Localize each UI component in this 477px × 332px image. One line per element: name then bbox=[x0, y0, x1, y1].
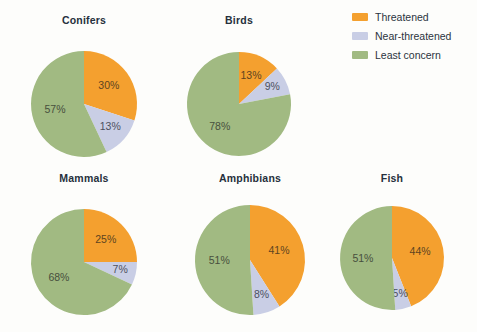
pie-chart-birds: 13%9%78% bbox=[187, 52, 291, 156]
pie-value-label-fish-near-threatened: 5% bbox=[393, 287, 408, 299]
pie-chart-fish: 44%5%51% bbox=[340, 206, 444, 310]
pie-value-label-mammals-near-threatened: 7% bbox=[113, 263, 128, 275]
pie-value-label-amphibians-near-threatened: 8% bbox=[254, 288, 269, 300]
pie-value-label-birds-least-concern: 78% bbox=[209, 120, 230, 132]
pie-value-label-amphibians-threatened: 41% bbox=[269, 244, 290, 256]
pie-value-label-amphibians-least-concern: 51% bbox=[209, 254, 230, 266]
pie-value-label-birds-threatened: 13% bbox=[240, 69, 261, 81]
pie-value-label-birds-near-threatened: 9% bbox=[265, 80, 280, 92]
pie-value-label-mammals-least-concern: 68% bbox=[48, 271, 69, 283]
pie-value-label-conifers-near-threatened: 13% bbox=[100, 120, 121, 132]
pie-value-label-fish-least-concern: 51% bbox=[352, 252, 373, 264]
pie-chart-amphibians: 41%8%51% bbox=[195, 205, 305, 315]
pie-charts-canvas: 30%13%57%13%9%78%25%7%68%41%8%51%44%5%51… bbox=[0, 0, 477, 332]
pie-value-label-conifers-least-concern: 57% bbox=[45, 103, 66, 115]
pie-chart-figure: Threatened Near-threatened Least concern… bbox=[0, 0, 477, 332]
pie-value-label-conifers-threatened: 30% bbox=[98, 79, 119, 91]
pie-value-label-mammals-threatened: 25% bbox=[95, 233, 116, 245]
pie-chart-mammals: 25%7%68% bbox=[31, 209, 137, 315]
pie-chart-conifers: 30%13%57% bbox=[31, 51, 137, 157]
pie-value-label-fish-threatened: 44% bbox=[410, 245, 431, 257]
